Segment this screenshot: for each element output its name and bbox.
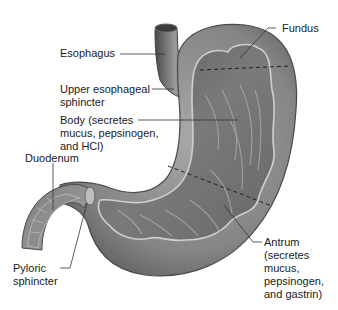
label-fundus: Fundus <box>282 22 319 35</box>
stomach-diagram: Fundus Esophagus Upper esophageal sphinc… <box>0 0 338 310</box>
duodenum <box>22 184 92 250</box>
label-body: Body (secretes mucus, pepsinogen, and HC… <box>60 114 158 153</box>
label-esophagus: Esophagus <box>60 47 115 60</box>
label-pyloric-sphincter: Pyloric sphincter <box>13 262 58 288</box>
label-duodenum: Duodenum <box>25 152 79 165</box>
label-antrum: Antrum (secretes mucus, pepsinogen, and … <box>264 236 324 301</box>
pyloric-sphincter <box>85 187 95 205</box>
label-upper-esophageal-sphincter: Upper esophageal sphincter <box>60 83 150 109</box>
